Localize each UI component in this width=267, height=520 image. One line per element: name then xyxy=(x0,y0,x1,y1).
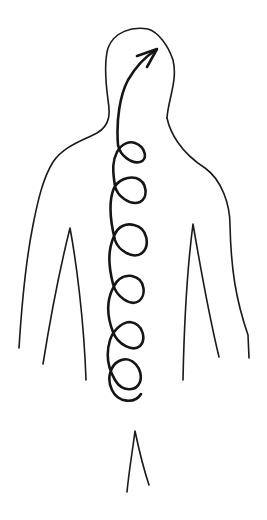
drawing-canvas: Body outline with spiral energy arrow ri… xyxy=(0,0,267,520)
body-outline xyxy=(19,28,249,492)
body-drawing xyxy=(0,0,267,520)
spiral-arrow xyxy=(108,49,157,401)
